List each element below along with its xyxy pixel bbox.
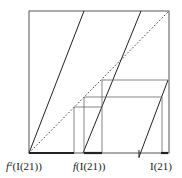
branch-1 bbox=[29, 11, 84, 153]
label-f-interval: f(I(21)) bbox=[73, 160, 106, 173]
map-diagram: f2(I(21)) f(I(21)) I(21) bbox=[0, 0, 182, 178]
label-f2-interval: f2(I(21)) bbox=[6, 160, 42, 173]
cobweb-level-2 bbox=[84, 97, 162, 153]
branch-3 bbox=[139, 80, 168, 157]
label-i21: I(21) bbox=[150, 160, 172, 173]
cobweb-level-3 bbox=[102, 80, 168, 153]
cobweb-level-1 bbox=[74, 107, 102, 153]
branch-2 bbox=[83, 11, 141, 153]
